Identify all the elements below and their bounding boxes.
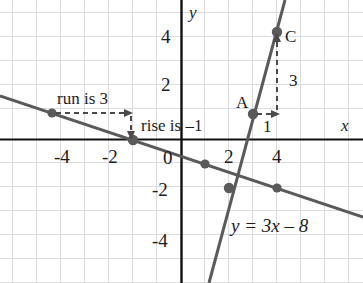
point-c-label: C: [285, 28, 296, 45]
x-tick-neg2: -2: [102, 147, 118, 166]
x-tick-neg4: -4: [54, 147, 70, 166]
run-is-3-label: run is 3: [57, 90, 108, 107]
rise-value-label: 3: [289, 72, 298, 89]
data-point: [47, 108, 56, 117]
y-tick-neg2: -2: [152, 180, 168, 199]
x-axis-label: x: [341, 117, 349, 134]
run-arrowhead-2: [271, 110, 280, 118]
x-tick-2: 2: [224, 147, 234, 166]
data-point: [224, 183, 234, 193]
data-point-a: [248, 109, 258, 119]
origin-label: 0: [163, 148, 173, 167]
y-tick-neg4: -4: [152, 231, 168, 250]
point-a-label: A: [236, 94, 248, 111]
rise-is-neg1-label: rise is –1: [141, 117, 202, 134]
line-y-equals-3x-minus-8: [209, 0, 285, 283]
y-tick-4: 4: [161, 27, 171, 46]
equation-label: y = 3x – 8: [231, 216, 308, 235]
graph-canvas: [0, 0, 363, 283]
coordinate-graph: y x 4 2 -2 -4 -4 -2 0 2 4 run is 3 rise …: [0, 0, 363, 283]
data-point: [272, 183, 281, 192]
y-axis-label: y: [189, 4, 197, 21]
run-value-label: 1: [263, 118, 272, 135]
data-point: [200, 159, 209, 168]
run-arrowhead: [124, 109, 133, 117]
slope-triangle-run-3: [56, 113, 131, 132]
y-tick-2: 2: [161, 75, 171, 94]
slope-triangle-run-1-rise-3: [257, 42, 277, 114]
x-tick-4: 4: [272, 147, 282, 166]
data-point: [128, 135, 138, 145]
axis-lines: [0, 0, 363, 283]
